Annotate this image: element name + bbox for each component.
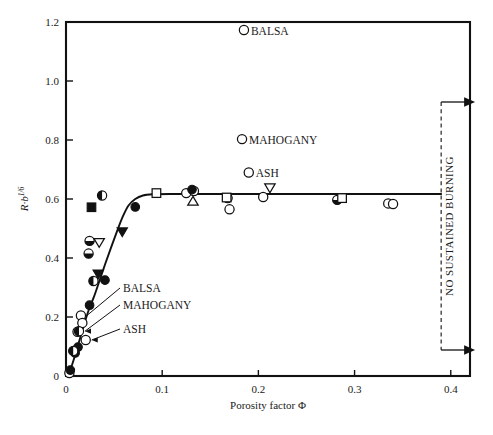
marker-open-circle bbox=[388, 199, 397, 208]
series-open-triangle-up bbox=[188, 196, 198, 205]
data-points-group bbox=[65, 25, 398, 377]
marker-filled-circle bbox=[101, 276, 110, 285]
leader-label: BALSA bbox=[123, 282, 161, 294]
y-tick-label: 0.2 bbox=[45, 311, 59, 323]
y-tick-label: 0.6 bbox=[45, 193, 59, 205]
no-burning-label: NO SUSTAINED BURNING bbox=[443, 156, 455, 296]
marker-filled-circle bbox=[66, 366, 75, 375]
series-half-circle-bottom bbox=[84, 195, 342, 258]
marker-open-circle bbox=[239, 25, 248, 34]
marker-open-circle bbox=[244, 168, 253, 177]
leader-label: ASH bbox=[123, 323, 146, 335]
y-tick-label: 0.4 bbox=[45, 252, 59, 264]
y-axis-title-base: R·b bbox=[18, 196, 30, 212]
marker-open-square bbox=[338, 194, 347, 203]
marker-filled-circle bbox=[131, 203, 140, 212]
marker-open-circle bbox=[237, 135, 246, 144]
series-filled-circle bbox=[66, 185, 196, 374]
marker-filled-triangle-down bbox=[117, 228, 127, 237]
leader-ash-leader: ASH bbox=[92, 323, 146, 343]
annotation-mahogany-top: MAHOGANY bbox=[249, 134, 318, 146]
marker-open-square bbox=[222, 193, 231, 202]
marker-open-circle bbox=[225, 205, 234, 214]
y-tick-label: 1.2 bbox=[45, 16, 59, 28]
x-axis-title: Porosity factor Φ bbox=[230, 399, 306, 411]
annotation-balsa-top: BALSA bbox=[251, 25, 289, 37]
y-tick-label: 1.0 bbox=[45, 75, 59, 87]
figure-root: 00.10.20.30.400.20.40.60.81.01.2 NO SUST… bbox=[0, 0, 493, 435]
x-tick-label: 0.2 bbox=[252, 383, 266, 395]
x-tick-label: 0.4 bbox=[444, 383, 458, 395]
x-tick-label: 0.1 bbox=[155, 383, 169, 395]
series-filled-triangle-down bbox=[93, 228, 127, 279]
y-axis-title: R·b1/6 bbox=[17, 186, 30, 212]
marker-open-triangle-down bbox=[94, 239, 104, 248]
marker-filled-circle bbox=[188, 185, 197, 194]
annotation-ash-top: ASH bbox=[256, 167, 279, 179]
marker-filled-circle bbox=[85, 301, 94, 310]
marker-open-square bbox=[152, 189, 161, 198]
marker-open-triangle-up bbox=[188, 196, 198, 205]
leader-label: MAHOGANY bbox=[123, 299, 192, 311]
porosity-burning-scatter-chart: 00.10.20.30.400.20.40.60.81.01.2 NO SUST… bbox=[0, 0, 493, 435]
y-tick-label: 0 bbox=[54, 370, 60, 382]
leader-arrowhead bbox=[92, 337, 98, 342]
x-tick-label: 0.3 bbox=[348, 383, 362, 395]
marker-open-triangle-down bbox=[265, 184, 275, 193]
annotations-group: BALSAMAHOGANYASHBALSAMAHOGANYASH bbox=[85, 25, 318, 343]
y-tick-label: 0.8 bbox=[45, 134, 59, 146]
svg-text:R·b1/6: R·b1/6 bbox=[17, 186, 30, 212]
x-tick-label: 0 bbox=[63, 383, 69, 395]
series-open-square bbox=[152, 189, 346, 203]
series-filled-square bbox=[87, 203, 96, 212]
marker-open-circle bbox=[81, 335, 90, 344]
marker-open-circle bbox=[259, 192, 268, 201]
y-axis-title-exponent: 1/6 bbox=[17, 186, 26, 196]
marker-filled-square bbox=[87, 203, 96, 212]
